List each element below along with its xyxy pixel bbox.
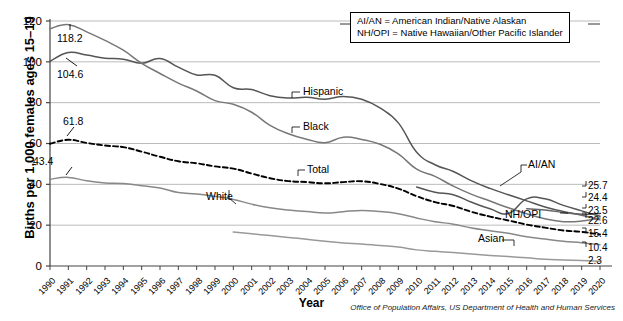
annotation-peak-total: 61.8 (63, 115, 83, 127)
series-line-hispanic (50, 52, 600, 214)
end-value-total: 15.4 (588, 228, 607, 239)
annotation-peak-black: 118.2 (57, 32, 83, 44)
annotation-peak-white: 43.4 (33, 155, 53, 167)
annotation-peak-hispanic: 104.6 (57, 68, 83, 80)
series-paths (50, 25, 600, 262)
axis-ticks (46, 21, 600, 270)
source-note: Office of Population Affairs, US Departm… (350, 303, 615, 312)
abbreviation-legend-box: AI/AN = American Indian/Native Alaskan N… (350, 12, 570, 43)
end-value-asian: 2.3 (588, 255, 602, 266)
series-label-black: Black (303, 120, 329, 132)
end-value-hispanic: 25.7 (588, 180, 607, 191)
legend-line-aian: AI/AN = American Indian/Native Alaskan (357, 15, 563, 27)
series-label-hispanic: Hispanic (303, 85, 343, 97)
series-label-asian: Asian (478, 232, 504, 244)
teen-birth-rate-chart: Births per 1,000 females ages 15–19 120 … (0, 0, 623, 321)
series-label-aian: AI/AN (528, 158, 555, 170)
series-label-white: White (206, 190, 233, 202)
series-line-total (50, 140, 600, 235)
series-label-total: Total (307, 163, 329, 175)
legend-line-nhopi: NH/OPI = Native Hawaiian/Other Pacific I… (357, 27, 563, 39)
end-value-aian: 24.4 (588, 192, 607, 203)
end-value-nhopi: 22.6 (588, 215, 607, 226)
axis-lines (50, 19, 612, 266)
end-value-white: 10.4 (588, 242, 607, 253)
series-line-asian (233, 232, 600, 261)
series-label-nhopi: NH/OPI (505, 208, 541, 220)
